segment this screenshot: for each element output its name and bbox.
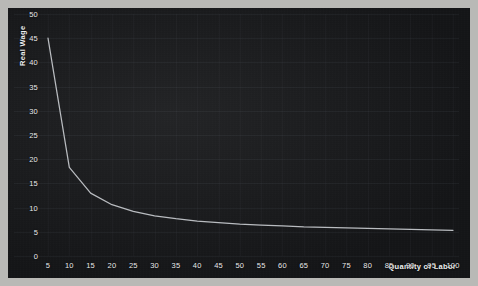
y-tick-label: 40 — [16, 58, 38, 67]
y-tick-label: 35 — [16, 82, 38, 91]
y-tick-label: 30 — [16, 106, 38, 115]
y-tick-label: 15 — [16, 179, 38, 188]
labor-demand-curve — [48, 38, 453, 230]
plot-area — [48, 14, 453, 256]
gridline-v — [453, 14, 454, 256]
data-curve-svg — [48, 14, 453, 256]
y-tick-label: 25 — [16, 131, 38, 140]
chart-canvas: Real Wage Quantity of Labor 051015202530… — [8, 8, 470, 278]
figure-frame: Real Wage Quantity of Labor 051015202530… — [0, 0, 478, 286]
y-tick-label: 10 — [16, 203, 38, 212]
y-tick-label: 0 — [16, 252, 38, 261]
gridline-h — [14, 256, 459, 257]
x-tick-label: 100 — [441, 261, 465, 270]
y-tick-label: 5 — [16, 227, 38, 236]
y-tick-label: 50 — [16, 10, 38, 19]
y-tick-label: 20 — [16, 155, 38, 164]
y-tick-label: 45 — [16, 34, 38, 43]
